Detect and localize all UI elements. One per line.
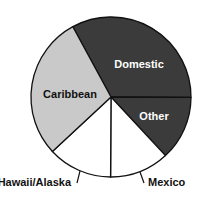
label-other: Other — [139, 110, 169, 122]
label-domestic: Domestic — [114, 58, 164, 70]
pie-chart: Domestic Other Caribbean Hawaii/Alaska M… — [0, 0, 199, 198]
label-mexico: Mexico — [148, 176, 186, 188]
hawaii-alaska-leader-line — [77, 171, 80, 183]
label-hawaii-alaska: Hawaii/Alaska — [0, 176, 72, 188]
label-caribbean: Caribbean — [43, 88, 97, 100]
mexico-leader-line — [140, 172, 144, 183]
